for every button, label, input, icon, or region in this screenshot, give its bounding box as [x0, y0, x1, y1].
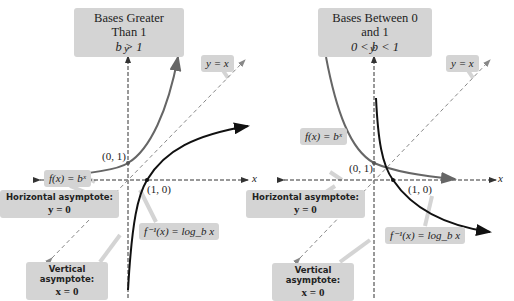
- left-x-axis-label: x: [252, 172, 257, 184]
- right-y-axis-label: y: [370, 42, 375, 54]
- left-h-asym-eq: y = 0: [6, 203, 113, 216]
- right-point-fx: (0, 1): [349, 162, 373, 174]
- left-v-asym-eq: x = 0: [32, 285, 102, 298]
- right-vertical-asymptote: Vertical asymptote: x = 0: [272, 263, 354, 301]
- left-h-asym-title: Horizontal asymptote:: [6, 193, 113, 203]
- left-condition: b > 1: [80, 40, 178, 54]
- right-title: Bases Between 0 and 1: [324, 11, 426, 40]
- right-v-asym-title: Vertical asymptote:: [278, 266, 348, 286]
- right-function-label: f(x) = bˣ: [300, 128, 347, 145]
- right-graph: [284, 56, 496, 298]
- left-title: Bases Greater Than 1: [80, 11, 178, 40]
- right-title-box: Bases Between 0 and 1 0 < b < 1: [318, 8, 432, 57]
- left-horizontal-asymptote: Horizontal asymptote: y = 0: [0, 190, 119, 218]
- right-inverse-label: f⁻¹(x) = log_b x: [385, 227, 465, 244]
- right-horizontal-asymptote: Horizontal asymptote: y = 0: [246, 190, 365, 218]
- left-inverse-label: f⁻¹(x) = log_b x: [139, 223, 219, 240]
- left-vertical-asymptote: Vertical asymptote: x = 0: [26, 262, 108, 300]
- left-point-inv: (1, 0): [147, 183, 171, 195]
- log-curve: [128, 126, 248, 290]
- right-h-asym-title: Horizontal asymptote:: [252, 193, 359, 203]
- left-point-fx: (0, 1): [102, 150, 126, 162]
- right-h-asym-eq: y = 0: [252, 203, 359, 216]
- right-point-inv: (1, 0): [408, 183, 432, 195]
- left-v-asym-title: Vertical asymptote:: [32, 265, 102, 285]
- left-y-axis-label: y: [124, 42, 129, 54]
- left-identity-label: y = x: [201, 55, 234, 72]
- right-v-asym-eq: x = 0: [278, 286, 348, 299]
- left-function-label: f(x) = bˣ: [44, 170, 91, 187]
- right-x-axis-label: x: [498, 172, 503, 184]
- right-identity-label: y = x: [446, 55, 479, 72]
- right-condition: 0 < b < 1: [324, 40, 426, 54]
- left-title-box: Bases Greater Than 1 b > 1: [74, 8, 184, 57]
